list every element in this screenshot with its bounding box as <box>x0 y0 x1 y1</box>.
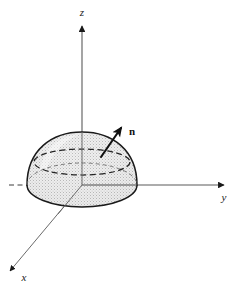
axis-label-z: z <box>79 6 85 18</box>
axis-label-y: y <box>221 191 227 203</box>
figure-canvas: z y x n <box>0 0 245 291</box>
normal-vector-label: n <box>129 125 135 137</box>
coordinate-diagram: z y x n <box>0 0 245 291</box>
axis-label-x: x <box>21 271 27 283</box>
